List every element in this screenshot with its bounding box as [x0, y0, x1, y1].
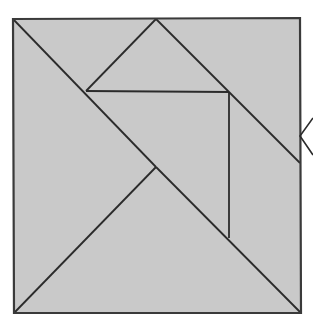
figure-root	[0, 0, 313, 327]
tangram-diagram	[0, 0, 313, 327]
chevron-left-marker-icon	[300, 118, 313, 155]
cut-leftnode-to-rightnode-via-center	[86, 91, 229, 92]
